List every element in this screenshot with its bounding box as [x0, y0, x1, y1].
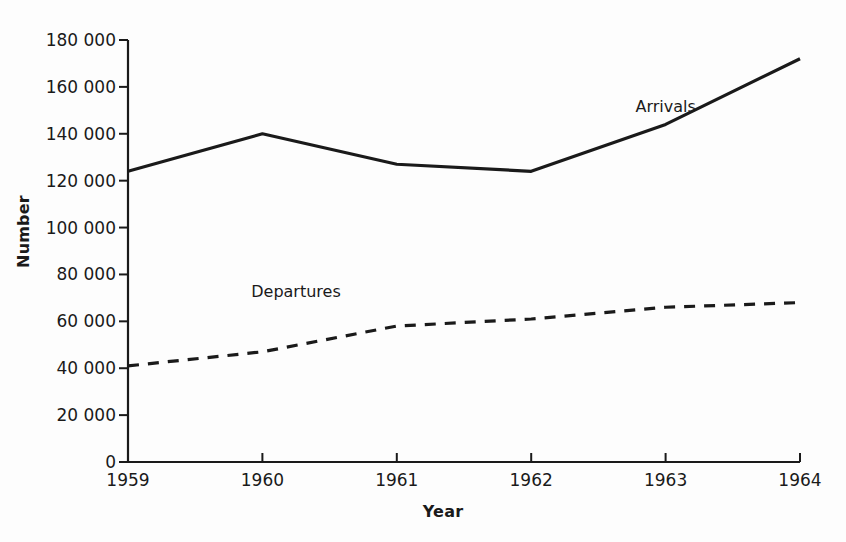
x-axis-tick-label: 1960	[241, 470, 284, 490]
x-axis-tick-label: 1962	[510, 470, 553, 490]
x-axis-title-text: Year	[423, 502, 463, 521]
x-axis-ticks	[128, 453, 800, 462]
x-axis-tick-label: 1959	[106, 470, 149, 490]
line-chart: Number 020 00040 00060 00080 000100 0001…	[0, 0, 846, 542]
x-axis-tick-label: 1963	[644, 470, 687, 490]
series-line-arrivals	[128, 59, 800, 172]
axes	[128, 40, 800, 462]
x-axis-tick-label: 1961	[375, 470, 418, 490]
y-axis-ticks	[119, 40, 128, 462]
series-line-departures	[128, 303, 800, 366]
plot-area	[0, 0, 846, 542]
series-annotation-departures: Departures	[251, 281, 341, 300]
series-annotation-arrivals: Arrivals	[635, 96, 695, 115]
data-series-group	[128, 59, 800, 366]
x-axis-title: Year	[0, 502, 846, 521]
x-axis-tick-label: 1964	[778, 470, 821, 490]
